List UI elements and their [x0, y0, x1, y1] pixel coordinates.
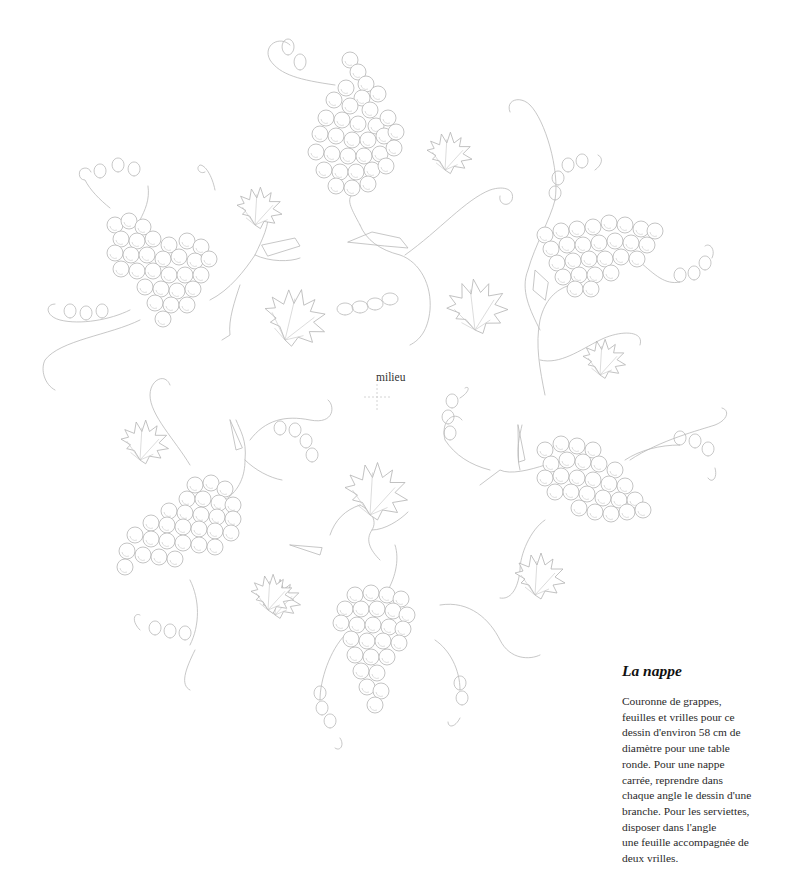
caption-line: ronde. Pour une nappe [622, 757, 787, 773]
caption-line: une feuille accompagnée de [622, 835, 787, 851]
caption-body: Couronne de grappes, feuilles et vrilles… [622, 694, 787, 867]
grape-cluster-lower-right [442, 387, 727, 599]
caption-block: La nappe Couronne de grappes, feuilles e… [622, 662, 787, 867]
caption-line: diamètre pour une table [622, 741, 787, 757]
caption-line: disposer dans l'angle [622, 820, 787, 836]
caption-line: dessin d'environ 58 cm de [622, 725, 787, 741]
center-label: milieu [376, 371, 405, 383]
caption-line: Couronne de grappes, [622, 694, 787, 710]
grape-cluster-upper-left [43, 158, 331, 390]
caption-line: deux vrilles. [622, 851, 787, 867]
caption-line: feuilles et vrilles pour ce [622, 710, 787, 726]
caption-title: La nappe [622, 662, 787, 680]
caption-line: carrée, reprendre dans [622, 773, 787, 789]
center-mark [364, 384, 392, 412]
grape-cluster-lower-left [117, 378, 332, 690]
grape-cluster-upper-right [443, 100, 714, 395]
caption-line: chaque angle le dessin d'une [622, 788, 787, 804]
caption-line: branche. Pour les serviettes, [622, 804, 787, 820]
